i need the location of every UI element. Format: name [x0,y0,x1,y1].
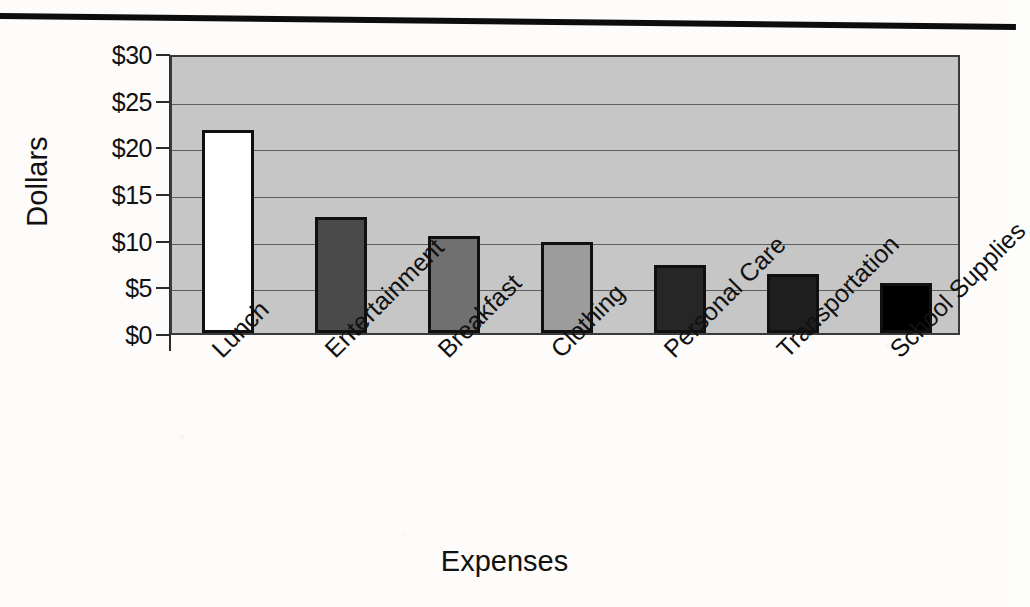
y-axis-tick-label: $10 [112,227,152,256]
y-axis-tick-label: $0 [125,321,152,350]
y-axis-tick-label: $25 [112,87,152,116]
y-axis-tick-mark [156,334,170,336]
y-axis-title: Dollars [21,112,54,252]
y-axis-tick-mark [156,194,170,196]
y-axis-tick-label: $30 [112,41,152,70]
y-axis-tick-label: $20 [112,134,152,163]
y-axis-tick-mark [156,147,170,149]
x-axis-title: Expenses [0,545,1009,578]
y-axis-tick-mark [156,287,170,289]
x-axis-labels: LunchEntertainmentBreakfastClothingPerso… [170,335,960,535]
y-axis-tick-label: $5 [125,274,152,303]
y-axis-tick-label: $15 [112,181,152,210]
y-axis-tick-mark [156,54,170,56]
y-axis-ticks: $0$5$10$15$20$25$30 [86,55,170,335]
y-axis-tick-mark [156,101,170,103]
y-axis-tick-mark [156,241,170,243]
